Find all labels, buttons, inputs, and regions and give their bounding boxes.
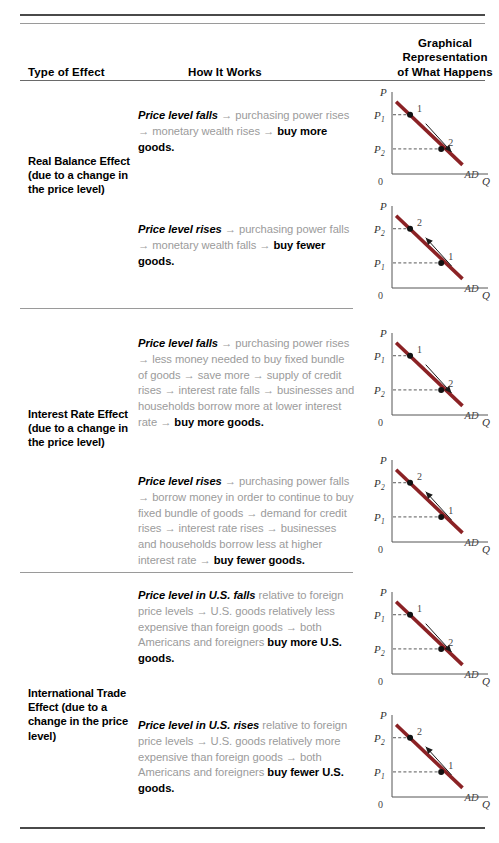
svg-text:1: 1 [448, 760, 453, 771]
lead-text: Price level in U.S. rises [138, 719, 259, 731]
svg-text:P: P [373, 223, 381, 235]
tail-text: buy fewer goods. [214, 554, 305, 566]
how-it-works-international-trade-rises: Price level in U.S. rises relative to fo… [138, 718, 356, 797]
row-divider-1 [20, 308, 353, 309]
svg-text:1: 1 [448, 505, 453, 516]
tail-text: buy more goods. [174, 416, 263, 428]
ad-curve-svg: PQ0ADP22P11 [362, 200, 494, 308]
svg-text:Q: Q [482, 289, 490, 301]
svg-text:2: 2 [381, 649, 385, 658]
svg-text:1: 1 [417, 344, 422, 355]
svg-text:2: 2 [381, 738, 385, 747]
ad-curve-graph-4: PQ0ADP22P11 [362, 454, 494, 562]
effect-label-international-trade: International Trade Effect (due to a cha… [28, 686, 140, 743]
header-graphical-representation: Graphical Representation of What Happens [385, 36, 499, 80]
svg-text:P: P [379, 200, 387, 212]
ad-curve-svg: PQ0ADP11P22 [362, 586, 494, 694]
svg-text:1: 1 [381, 356, 385, 365]
how-it-works-international-trade-falls: Price level in U.S. falls relative to fo… [138, 588, 356, 667]
svg-text:2: 2 [381, 229, 385, 238]
lead-text: Price level rises [138, 223, 222, 235]
svg-text:1: 1 [381, 517, 385, 526]
header-graphical-line2: Representation [385, 50, 499, 65]
lead-text: Price level falls [138, 109, 218, 121]
header-top-rule [20, 23, 485, 24]
header-how-it-works: How It Works [188, 66, 262, 78]
svg-text:AD: AD [464, 169, 479, 180]
svg-text:1: 1 [381, 615, 385, 624]
svg-text:AD: AD [464, 410, 479, 421]
svg-text:2: 2 [417, 471, 422, 482]
svg-text:1: 1 [417, 603, 422, 614]
svg-text:P: P [373, 143, 381, 155]
svg-text:0: 0 [378, 176, 383, 187]
svg-text:P: P [373, 257, 381, 269]
row-divider-2 [20, 572, 353, 573]
svg-text:0: 0 [378, 799, 383, 810]
effect-label-interest-rate: Interest Rate Effect (due to a change in… [28, 407, 140, 450]
svg-text:P: P [379, 327, 387, 339]
svg-text:2: 2 [381, 390, 385, 399]
svg-text:P: P [373, 766, 381, 778]
header-graphical-line1: Graphical [385, 36, 499, 51]
svg-text:P: P [379, 454, 387, 466]
ad-curve-svg: PQ0ADP22P11 [362, 454, 494, 562]
table-header: Type of Effect How It Works Graphical Re… [20, 26, 485, 80]
effect-label-real-balance: Real Balance Effect (due to a change in … [28, 154, 140, 197]
svg-text:Q: Q [482, 798, 490, 810]
how-it-works-real-balance-rises: Price level rises → purchasing power fal… [138, 222, 356, 269]
svg-text:0: 0 [378, 417, 383, 428]
svg-text:Q: Q [482, 675, 490, 687]
svg-text:P: P [379, 709, 387, 721]
svg-text:AD: AD [464, 283, 479, 294]
ad-curve-svg: PQ0ADP11P22 [362, 327, 494, 435]
how-it-works-real-balance-falls: Price level falls → purchasing power ris… [138, 108, 356, 155]
bottom-rule [20, 827, 485, 829]
svg-text:P: P [373, 384, 381, 396]
svg-text:P: P [373, 511, 381, 523]
svg-text:2: 2 [417, 726, 422, 737]
svg-text:1: 1 [381, 115, 385, 124]
svg-text:P: P [373, 643, 381, 655]
svg-text:P: P [379, 586, 387, 598]
ad-curve-graph-3: PQ0ADP11P22 [362, 327, 494, 435]
top-rule [20, 14, 485, 16]
svg-text:2: 2 [417, 217, 422, 228]
how-it-works-interest-rate-falls: Price level falls → purchasing power ris… [138, 336, 356, 431]
svg-text:P: P [373, 732, 381, 744]
svg-text:0: 0 [378, 676, 383, 687]
svg-text:2: 2 [381, 149, 385, 158]
svg-text:P: P [373, 350, 381, 362]
svg-text:P: P [373, 609, 381, 621]
svg-text:AD: AD [464, 792, 479, 803]
header-type-of-effect: Type of Effect [28, 66, 105, 78]
svg-text:2: 2 [381, 483, 385, 492]
svg-text:Q: Q [482, 175, 490, 187]
body-text: → purchasing power falls → borrow money … [138, 475, 354, 566]
ad-curve-graph-2: PQ0ADP22P11 [362, 200, 494, 308]
how-it-works-interest-rate-rises: Price level rises → purchasing power fal… [138, 474, 356, 569]
svg-text:1: 1 [417, 103, 422, 114]
svg-text:0: 0 [378, 290, 383, 301]
svg-text:1: 1 [448, 251, 453, 262]
table-figure: Type of Effect How It Works Graphical Re… [0, 0, 499, 843]
ad-curve-graph-6: PQ0ADP22P11 [362, 709, 494, 817]
svg-text:P: P [379, 86, 387, 98]
svg-text:1: 1 [381, 772, 385, 781]
svg-text:P: P [373, 477, 381, 489]
svg-text:Q: Q [482, 416, 490, 428]
ad-curve-graph-1: PQ0ADP11P22 [362, 86, 494, 194]
svg-text:0: 0 [378, 544, 383, 555]
ad-curve-svg: PQ0ADP11P22 [362, 86, 494, 194]
lead-text: Price level in U.S. falls [138, 589, 256, 601]
svg-text:AD: AD [464, 669, 479, 680]
lead-text: Price level falls [138, 337, 218, 349]
svg-text:P: P [373, 109, 381, 121]
svg-text:1: 1 [381, 263, 385, 272]
ad-curve-graph-5: PQ0ADP11P22 [362, 586, 494, 694]
svg-text:AD: AD [464, 537, 479, 548]
ad-curve-svg: PQ0ADP22P11 [362, 709, 494, 817]
header-graphical-line3: of What Happens [385, 65, 499, 80]
table-body: Real Balance Effect (due to a change in … [0, 82, 499, 825]
lead-text: Price level rises [138, 475, 222, 487]
